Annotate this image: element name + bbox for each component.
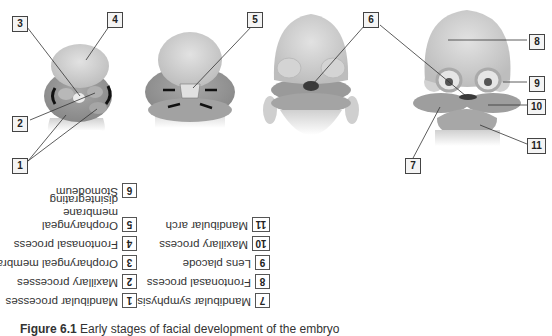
embryo-stage-1 bbox=[44, 44, 112, 131]
callout-7: 7 bbox=[405, 158, 421, 174]
callout-11: 11 bbox=[527, 138, 546, 154]
callout-9: 9 bbox=[529, 76, 545, 92]
legend-item-10: 10 Maxillary process bbox=[159, 236, 270, 251]
legend-item-8: 8 Frontonasal process bbox=[147, 274, 270, 289]
callout-8: 8 bbox=[529, 34, 545, 50]
caption-label: Figure 6.1 bbox=[20, 322, 77, 336]
legend-item-5: 5 Oropharyngeal membrane disintegrating bbox=[0, 193, 137, 232]
callout-5: 5 bbox=[247, 12, 263, 28]
legend-item-7: 7 Mandibular symphysis bbox=[137, 293, 270, 308]
embryo-stage-3 bbox=[263, 14, 359, 135]
callout-10: 10 bbox=[527, 99, 546, 115]
embryo-figure: 1 2 3 4 5 6 7 8 9 10 11 bbox=[0, 0, 552, 200]
legend-item-6: 6 Stomodeum bbox=[56, 183, 137, 198]
callout-4: 4 bbox=[107, 12, 123, 28]
legend-item-1: 1 Mandibular processes bbox=[5, 293, 137, 308]
callout-1: 1 bbox=[12, 158, 28, 174]
embryo-illustrations bbox=[0, 0, 552, 200]
caption-text: Early stages of facial development of th… bbox=[80, 322, 339, 336]
embryo-stage-2 bbox=[145, 32, 235, 128]
legend-item-11: 11 Mandibular arch bbox=[166, 217, 270, 232]
legend: 1 Mandibular processes 2 Maxillary proce… bbox=[0, 200, 552, 318]
legend-item-2: 2 Maxillary processes bbox=[17, 274, 137, 289]
figure-caption: Figure 6.1 Early stages of facial develo… bbox=[20, 322, 340, 336]
legend-item-4: 4 Frontonasal process bbox=[14, 236, 137, 251]
embryo-stage-4 bbox=[413, 10, 521, 146]
legend-item-3: 3 Oropharyngeal membrane bbox=[0, 255, 137, 270]
callout-3: 3 bbox=[12, 16, 28, 32]
legend-item-9: 9 Lens placode bbox=[183, 255, 270, 270]
callout-2: 2 bbox=[12, 116, 28, 132]
callout-6: 6 bbox=[363, 12, 379, 28]
